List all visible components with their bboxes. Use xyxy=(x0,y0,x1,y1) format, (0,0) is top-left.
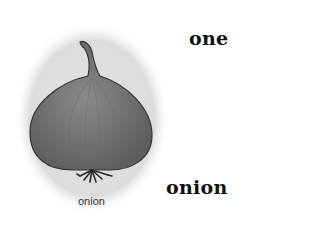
word-onion: onion xyxy=(166,176,228,198)
word-one: one xyxy=(189,27,228,49)
illustration-caption: onion xyxy=(78,195,105,207)
